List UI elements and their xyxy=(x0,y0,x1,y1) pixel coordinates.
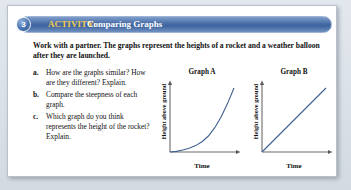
list-item: b. Compare the steepness of each graph. xyxy=(33,90,151,109)
question-letter: c. xyxy=(33,112,46,141)
graph-b-x-axis-label: Time xyxy=(258,162,330,170)
question-text: Compare the steepness of each graph. xyxy=(46,90,151,109)
graph-b-panel: Graph B Height above ground Time xyxy=(248,68,340,180)
graph-b-plot xyxy=(256,78,336,160)
page-root: 3 ACTIVITY: Comparing Graphs Work with a… xyxy=(0,0,351,190)
question-letter: a. xyxy=(33,68,46,87)
graph-a-title: Graph A xyxy=(156,68,248,76)
graph-b-title: Graph B xyxy=(248,68,340,76)
graph-b-line xyxy=(262,88,326,152)
graph-a-x-axis-label: Time xyxy=(166,162,238,170)
question-letter: b. xyxy=(33,90,46,109)
activity-number-badge: 3 xyxy=(16,17,31,32)
graph-a-plot xyxy=(164,78,244,160)
activity-card: 3 ACTIVITY: Comparing Graphs Work with a… xyxy=(7,5,337,177)
list-item: a. How are the graphs similar? How are t… xyxy=(33,68,151,87)
graph-a-curve xyxy=(170,88,234,152)
intro-paragraph: Work with a partner. The graphs represen… xyxy=(33,41,323,61)
question-list: a. How are the graphs similar? How are t… xyxy=(33,68,151,144)
list-item: c. Which graph do you think represents t… xyxy=(33,112,151,141)
activity-title-label: Comparing Graphs xyxy=(87,19,162,29)
question-text: Which graph do you think represents the … xyxy=(46,112,151,141)
graph-a-panel: Graph A Height above ground Time xyxy=(156,68,248,180)
question-text: How are the graphs similar? How are they… xyxy=(46,68,151,87)
